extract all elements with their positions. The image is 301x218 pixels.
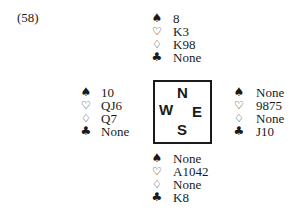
spade-icon: ♠ — [151, 12, 163, 25]
south-clubs: K8 — [173, 191, 189, 204]
club-icon: ♣ — [233, 125, 245, 138]
spade-icon: ♠ — [233, 86, 245, 99]
heart-icon: ♡ — [151, 165, 163, 178]
compass-north: N — [177, 85, 188, 100]
club-icon: ♣ — [151, 51, 163, 64]
heart-icon: ♡ — [233, 99, 245, 112]
spade-icon: ♠ — [80, 86, 92, 99]
compass-box: N W E S — [153, 80, 212, 144]
club-icon: ♣ — [151, 191, 163, 204]
east-clubs: J10 — [256, 125, 274, 138]
problem-number: (58) — [17, 11, 39, 25]
compass-east: E — [192, 104, 202, 119]
heart-icon: ♡ — [151, 25, 163, 38]
compass-south: S — [177, 122, 187, 137]
north-clubs: None — [173, 51, 201, 64]
west-clubs: None — [101, 125, 129, 138]
spade-icon: ♠ — [151, 152, 163, 165]
club-icon: ♣ — [80, 125, 92, 138]
heart-icon: ♡ — [80, 99, 92, 112]
compass-west: W — [159, 102, 173, 117]
